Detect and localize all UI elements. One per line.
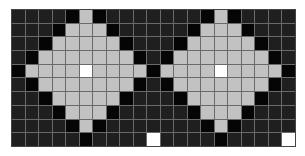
- grid-cell: [161, 92, 174, 105]
- grid-cell: [80, 120, 93, 133]
- grid-cell: [269, 120, 282, 133]
- grid-cell: [12, 106, 25, 119]
- grid-cell: [201, 24, 214, 37]
- grid-cell: [53, 92, 66, 105]
- grid-cell: [134, 51, 147, 64]
- grid-cell: [215, 51, 228, 64]
- grid-cell: [107, 78, 120, 91]
- grid-cell: [120, 24, 133, 37]
- grid-cell: [80, 106, 93, 119]
- grid-cell: [215, 133, 228, 146]
- grid-cell: [39, 24, 52, 37]
- grid-cell: [12, 133, 25, 146]
- grid-cell: [242, 65, 255, 78]
- grid-cell: [66, 37, 79, 50]
- grid-cell: [269, 65, 282, 78]
- grid-cell: [93, 10, 106, 23]
- grid-cell: [26, 133, 39, 146]
- grid-cell: [120, 78, 133, 91]
- grid-cell: [188, 78, 201, 91]
- grid-cell: [107, 51, 120, 64]
- grid-cell: [215, 24, 228, 37]
- grid-cell: [39, 37, 52, 50]
- grid-cell: [269, 37, 282, 50]
- grid-cell: [93, 78, 106, 91]
- grid-cell: [26, 24, 39, 37]
- grid-cell: [66, 92, 79, 105]
- grid-cell: [282, 65, 295, 78]
- grid-cell: [228, 92, 241, 105]
- grid-cell: [242, 51, 255, 64]
- grid-cell: [80, 37, 93, 50]
- grid-cell: [201, 10, 214, 23]
- grid-cell: [188, 120, 201, 133]
- pixel-pattern-grid: [11, 9, 296, 147]
- grid-cell: [228, 10, 241, 23]
- grid-cell: [269, 24, 282, 37]
- grid-cell: [255, 65, 268, 78]
- grid-cell: [242, 133, 255, 146]
- grid-cell: [39, 65, 52, 78]
- grid-cell: [161, 120, 174, 133]
- grid-cell: [215, 120, 228, 133]
- grid-cell: [53, 37, 66, 50]
- grid-cell: [53, 65, 66, 78]
- grid-cell: [161, 37, 174, 50]
- grid-cell: [80, 78, 93, 91]
- grid-cell: [66, 65, 79, 78]
- grid-cell: [147, 51, 160, 64]
- grid-cell: [242, 78, 255, 91]
- grid-cell: [215, 106, 228, 119]
- grid-cell: [255, 106, 268, 119]
- grid-cell: [26, 106, 39, 119]
- grid-cell: [107, 120, 120, 133]
- grid-cell: [174, 51, 187, 64]
- grid-cell: [147, 24, 160, 37]
- grid-cell: [269, 78, 282, 91]
- grid-cell: [201, 106, 214, 119]
- grid-cell: [269, 133, 282, 146]
- grid-cell: [53, 24, 66, 37]
- grid-cell: [242, 37, 255, 50]
- grid-cell: [39, 120, 52, 133]
- grid-cell: [255, 78, 268, 91]
- grid-cell: [107, 24, 120, 37]
- grid-cell: [282, 24, 295, 37]
- grid-cell: [120, 106, 133, 119]
- grid-cell: [120, 133, 133, 146]
- grid-cell: [26, 10, 39, 23]
- grid-cell: [228, 78, 241, 91]
- grid-cell: [53, 120, 66, 133]
- grid-cell: [174, 78, 187, 91]
- grid-cell: [188, 65, 201, 78]
- grid-cell: [12, 24, 25, 37]
- grid-cell: [147, 92, 160, 105]
- grid-cell: [269, 92, 282, 105]
- grid-cell: [66, 133, 79, 146]
- grid-cell: [134, 78, 147, 91]
- grid-cell: [282, 106, 295, 119]
- grid-cell: [255, 92, 268, 105]
- grid-cell: [12, 92, 25, 105]
- grid-cell: [282, 92, 295, 105]
- grid-cell: [26, 37, 39, 50]
- grid-cell: [66, 51, 79, 64]
- grid-cell: [201, 78, 214, 91]
- grid-cell: [161, 78, 174, 91]
- grid-cell: [93, 106, 106, 119]
- grid-cell: [147, 133, 160, 146]
- grid-cell: [282, 120, 295, 133]
- grid-cell: [93, 120, 106, 133]
- grid-cell: [93, 92, 106, 105]
- grid-cell: [201, 65, 214, 78]
- grid-cell: [161, 10, 174, 23]
- grid-cell: [53, 78, 66, 91]
- grid-cell: [80, 24, 93, 37]
- grid-cell: [174, 37, 187, 50]
- grid-cell: [93, 133, 106, 146]
- grid-cell: [215, 10, 228, 23]
- grid-cell: [66, 10, 79, 23]
- grid-cell: [26, 51, 39, 64]
- grid-cell: [201, 51, 214, 64]
- grid-cell: [93, 37, 106, 50]
